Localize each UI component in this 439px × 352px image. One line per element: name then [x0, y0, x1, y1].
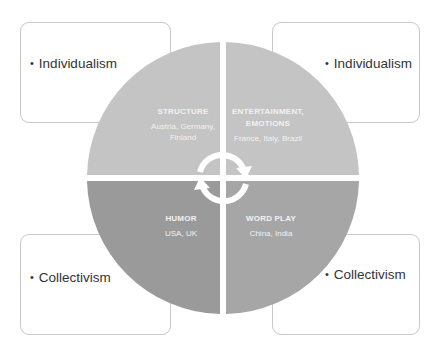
quadrant-bottom-left: [87, 181, 220, 314]
cycle-arrows-icon: [200, 155, 246, 201]
quadrant-title: HUMOR: [150, 213, 212, 225]
quadrant-countries: France, Italy, Brazil: [228, 133, 308, 144]
quadrant-countries: USA, UK: [150, 228, 212, 239]
quadrant-bottom-right: [226, 181, 359, 314]
quadrant-countries: China, India: [240, 228, 302, 239]
quadrant-label-bottom-right: WORD PLAY China, India: [240, 213, 302, 239]
quadrant-label-top-left: STRUCTURE Austria, Germany, Finland: [148, 106, 218, 143]
quadrant-label-bottom-left: HUMOR USA, UK: [150, 213, 212, 239]
quadrant-wheel: [0, 0, 439, 352]
quadrant-title: WORD PLAY: [240, 213, 302, 225]
quadrant-countries: Austria, Germany, Finland: [148, 121, 218, 143]
quadrant-label-top-right: ENTERTAINMENT, EMOTIONS France, Italy, B…: [228, 106, 308, 144]
quadrant-title: STRUCTURE: [148, 106, 218, 118]
quadrant-title: ENTERTAINMENT, EMOTIONS: [228, 106, 308, 130]
